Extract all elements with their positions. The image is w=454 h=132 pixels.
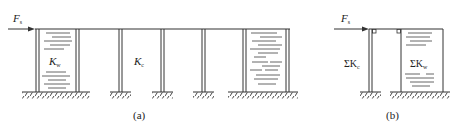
- force-arrow-a: [8, 27, 35, 32]
- wall-stiffness-label-a: Kw: [48, 55, 61, 68]
- figure-b: Fs ΣKc: [334, 12, 450, 122]
- force-arrow-b: [334, 27, 369, 32]
- column-stiffness-label-b: ΣKc: [344, 58, 360, 70]
- structure-diagram: Fs Kw: [0, 0, 454, 132]
- wall-hatch-lines: [250, 33, 282, 84]
- figure-a: Fs Kw: [8, 12, 298, 122]
- column-3: [193, 29, 214, 99]
- hinge-left: [373, 30, 377, 34]
- shear-wall-left: Kw: [22, 29, 90, 99]
- force-label-b: Fs: [340, 12, 351, 25]
- wall-hatch-lines: [42, 33, 72, 88]
- column-2: [152, 29, 173, 99]
- column-1: [110, 29, 131, 99]
- hinge-right: [397, 30, 401, 34]
- caption-a: (a): [133, 109, 146, 122]
- column-stiffness-label-a: Kc: [133, 55, 144, 68]
- force-label-a: Fs: [12, 12, 23, 25]
- equivalent-column: [360, 29, 381, 99]
- wall-stiffness-label-b: ΣKw: [410, 58, 428, 70]
- shear-wall-right: [228, 29, 298, 99]
- caption-b: (b): [386, 109, 399, 122]
